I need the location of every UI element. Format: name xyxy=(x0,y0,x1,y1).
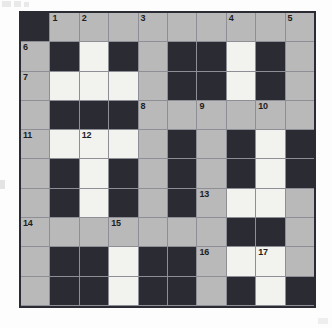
crossword-cell-r5-c4[interactable] xyxy=(109,130,137,158)
crossword-grid[interactable]: 123456789101112131415161718 xyxy=(21,13,314,306)
crossword-cell-r3-c6 xyxy=(168,72,196,100)
clue-number: 17 xyxy=(258,247,268,258)
crossword-cell-r7-c10[interactable] xyxy=(286,189,314,217)
crossword-cell-r5-c7[interactable] xyxy=(197,130,225,158)
crossword-cell-r2-c3[interactable] xyxy=(80,42,108,70)
clue-number: 11 xyxy=(23,130,32,141)
crossword-cell-r6-c4 xyxy=(109,159,137,187)
crossword-cell-r3-c2[interactable] xyxy=(50,72,78,100)
crossword-cell-r4-c9[interactable]: 10 xyxy=(256,101,284,129)
crossword-cell-r7-c2 xyxy=(50,189,78,217)
crossword-cell-r2-c10[interactable] xyxy=(286,42,314,70)
crossword-cell-r3-c3[interactable] xyxy=(80,72,108,100)
crossword-cell-r1-c5[interactable]: 3 xyxy=(139,13,167,41)
crossword-cell-r5-c3[interactable]: 12 xyxy=(80,130,108,158)
crossword-cell-r9-c10[interactable] xyxy=(286,247,314,275)
clue-number: 4 xyxy=(229,13,234,24)
crossword-cell-r9-c4[interactable] xyxy=(109,247,137,275)
crossword-cell-r1-c4[interactable] xyxy=(109,13,137,41)
crossword-cell-r8-c6[interactable] xyxy=(168,218,196,246)
crossword-cell-r3-c10[interactable] xyxy=(286,72,314,100)
crossword-cell-r9-c5 xyxy=(139,247,167,275)
crossword-cell-r6-c7[interactable] xyxy=(197,159,225,187)
crossword-cell-r3-c8[interactable] xyxy=(227,72,255,100)
crossword-cell-r7-c3[interactable] xyxy=(80,189,108,217)
crossword-cell-r6-c10 xyxy=(286,159,314,187)
crossword-cell-r6-c6 xyxy=(168,159,196,187)
crossword-cell-r5-c6 xyxy=(168,130,196,158)
crossword-cell-r5-c8 xyxy=(227,130,255,158)
crossword-cell-r1-c7[interactable] xyxy=(197,13,225,41)
clue-number: 14 xyxy=(23,218,33,229)
crossword-cell-r5-c5[interactable] xyxy=(139,130,167,158)
crossword-cell-r1-c9[interactable] xyxy=(256,13,284,41)
crossword-cell-r4-c5[interactable]: 8 xyxy=(139,101,167,129)
crossword-cell-r6-c3[interactable] xyxy=(80,159,108,187)
crossword-cell-r6-c1[interactable] xyxy=(21,159,49,187)
crossword-cell-r7-c4 xyxy=(109,189,137,217)
crossword-cell-r8-c9 xyxy=(256,218,284,246)
crossword-cell-r4-c6[interactable] xyxy=(168,101,196,129)
crossword-cell-r7-c6 xyxy=(168,189,196,217)
crossword-cell-r8-c7[interactable] xyxy=(197,218,225,246)
crossword-cell-r2-c1[interactable]: 6 xyxy=(21,42,49,70)
scan-artifact xyxy=(14,1,21,7)
crossword-cell-r6-c2 xyxy=(50,159,78,187)
crossword-cell-r2-c5[interactable] xyxy=(139,42,167,70)
crossword-cell-r2-c7 xyxy=(197,42,225,70)
crossword-cell-r4-c4 xyxy=(109,101,137,129)
crossword-cell-r8-c8 xyxy=(227,218,255,246)
crossword-cell-r7-c9[interactable] xyxy=(256,189,284,217)
crossword-cell-r10-c9[interactable] xyxy=(256,277,284,305)
crossword-cell-r8-c10[interactable] xyxy=(286,218,314,246)
crossword-cell-r9-c7[interactable]: 16 xyxy=(197,247,225,275)
crossword-cell-r4-c7[interactable]: 9 xyxy=(197,101,225,129)
crossword-cell-r7-c8[interactable] xyxy=(227,189,255,217)
crossword-cell-r2-c8[interactable] xyxy=(227,42,255,70)
clue-number: 2 xyxy=(82,13,87,24)
crossword-cell-r10-c8 xyxy=(227,277,255,305)
crossword-cell-r9-c6 xyxy=(168,247,196,275)
crossword-cell-r9-c3 xyxy=(80,247,108,275)
crossword-cell-r3-c1[interactable]: 7 xyxy=(21,72,49,100)
crossword-cell-r1-c3[interactable]: 2 xyxy=(80,13,108,41)
crossword-cell-r1-c10[interactable]: 5 xyxy=(286,13,314,41)
crossword-cell-r3-c5[interactable] xyxy=(139,72,167,100)
crossword-cell-r9-c9[interactable]: 17 xyxy=(256,247,284,275)
crossword-cell-r1-c2[interactable]: 1 xyxy=(50,13,78,41)
crossword-cell-r3-c4[interactable] xyxy=(109,72,137,100)
crossword-cell-r7-c7[interactable]: 13 xyxy=(197,189,225,217)
crossword-cell-r2-c4 xyxy=(109,42,137,70)
clue-number: 12 xyxy=(82,130,92,141)
crossword-cell-r4-c10[interactable] xyxy=(286,101,314,129)
crossword-cell-r8-c2[interactable] xyxy=(50,218,78,246)
crossword-cell-r10-c1[interactable] xyxy=(21,277,49,305)
crossword-cell-r1-c1 xyxy=(21,13,49,41)
crossword-cell-r8-c5[interactable] xyxy=(139,218,167,246)
crossword-cell-r7-c5[interactable] xyxy=(139,189,167,217)
crossword-cell-r1-c6[interactable] xyxy=(168,13,196,41)
crossword-cell-r5-c2[interactable] xyxy=(50,130,78,158)
crossword-cell-r8-c3[interactable] xyxy=(80,218,108,246)
crossword-cell-r5-c1[interactable]: 11 xyxy=(21,130,49,158)
crossword-cell-r10-c5 xyxy=(139,277,167,305)
crossword-cell-r1-c8[interactable]: 4 xyxy=(227,13,255,41)
crossword-cell-r6-c8 xyxy=(227,159,255,187)
crossword-cell-r10-c2 xyxy=(50,277,78,305)
crossword-cell-r6-c5[interactable] xyxy=(139,159,167,187)
crossword-cell-r8-c1[interactable]: 14 xyxy=(21,218,49,246)
crossword-cell-r9-c2 xyxy=(50,247,78,275)
clue-number: 8 xyxy=(141,101,146,112)
crossword-cell-r9-c1[interactable] xyxy=(21,247,49,275)
crossword-cell-r10-c7[interactable] xyxy=(197,277,225,305)
crossword-cell-r5-c9[interactable] xyxy=(256,130,284,158)
scan-artifact xyxy=(0,180,5,189)
scan-artifact xyxy=(318,318,328,324)
crossword-cell-r8-c4[interactable]: 15 xyxy=(109,218,137,246)
crossword-cell-r4-c8[interactable] xyxy=(227,101,255,129)
crossword-cell-r6-c9[interactable] xyxy=(256,159,284,187)
crossword-cell-r7-c1[interactable] xyxy=(21,189,49,217)
crossword-cell-r9-c8[interactable] xyxy=(227,247,255,275)
crossword-cell-r10-c4[interactable] xyxy=(109,277,137,305)
crossword-cell-r4-c1[interactable] xyxy=(21,101,49,129)
